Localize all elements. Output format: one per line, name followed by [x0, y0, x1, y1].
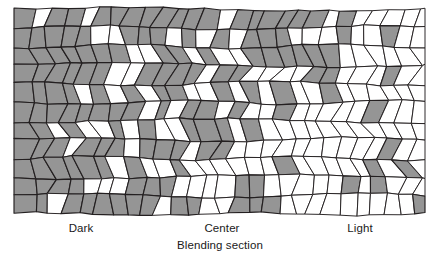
mosaic-cell [14, 195, 37, 214]
mosaic-cell [351, 25, 364, 45]
mosaic-cell [29, 26, 46, 48]
mosaic-cell [235, 175, 250, 198]
mosaic-cell [327, 175, 343, 194]
axis-label-light: Light [347, 222, 372, 234]
mosaic-cell [263, 175, 281, 197]
mosaic-tessellation [0, 0, 429, 260]
mosaic-cell [165, 28, 182, 48]
mosaic-cell-group [14, 7, 425, 216]
mosaic-cell [14, 82, 35, 103]
mosaic-cell [91, 25, 111, 45]
mosaic-cell [398, 194, 414, 215]
mosaic-cell [357, 193, 370, 216]
mosaic-cell [150, 27, 167, 45]
mosaic-cell [36, 193, 47, 213]
mosaic-cell [171, 197, 189, 215]
mosaic-cell [138, 27, 151, 45]
mosaic-cell [138, 120, 157, 140]
mosaic-cell [370, 176, 387, 193]
mosaic-cell [318, 26, 338, 44]
axis-label-dark: Dark [69, 222, 94, 234]
mosaic-cell [340, 193, 358, 216]
mosaic-cell [181, 28, 196, 48]
mosaic-cell [261, 196, 281, 214]
mosaic-cell [215, 175, 236, 198]
mosaic-cell [313, 175, 329, 194]
mosaic-cell [124, 139, 140, 158]
mosaic-cell [14, 178, 37, 195]
mosaic-cell [413, 194, 425, 214]
figure-caption: Blending section [177, 239, 263, 251]
figure-page: Dark Center Light Blending section [0, 0, 429, 260]
axis-label-center: Center [204, 222, 239, 234]
mosaic-cell [336, 26, 351, 44]
blending-section-figure: Dark Center Light Blending section [0, 0, 429, 260]
mosaic-cell [249, 175, 264, 198]
mosaic-cell [68, 179, 84, 194]
